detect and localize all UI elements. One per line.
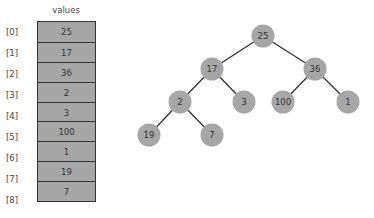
tree-node-label: 36 xyxy=(310,64,321,74)
tree-node: 36 xyxy=(304,58,327,81)
tree-node-label: 17 xyxy=(207,64,218,74)
tree-node: 1 xyxy=(337,91,360,114)
tree-node: 100 xyxy=(272,91,295,114)
binary-tree: 251736231001197 xyxy=(0,0,374,218)
tree-node-label: 19 xyxy=(144,130,155,140)
tree-node: 19 xyxy=(138,124,161,147)
tree-node: 3 xyxy=(233,91,256,114)
tree-node: 2 xyxy=(169,91,192,114)
tree-node-label: 2 xyxy=(177,97,182,107)
tree-node-label: 3 xyxy=(241,97,246,107)
tree-node: 7 xyxy=(201,124,224,147)
tree-node: 25 xyxy=(252,25,275,48)
tree-node-label: 7 xyxy=(209,130,214,140)
tree-node: 17 xyxy=(201,58,224,81)
tree-node-label: 100 xyxy=(275,97,291,107)
tree-node-label: 25 xyxy=(258,31,269,41)
tree-node-label: 1 xyxy=(345,97,350,107)
